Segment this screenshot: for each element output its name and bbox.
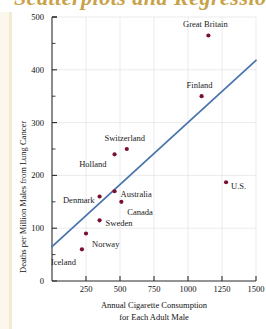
y-axis-title: Deaths per Million Males from Lung Cance…	[19, 121, 28, 273]
x-axis-title-line1: Annual Cigarette Consumption	[52, 301, 256, 310]
data-point	[206, 33, 210, 37]
y-axis-tick-label: 0	[0, 277, 44, 286]
y-axis-tick-label: 500	[0, 13, 44, 22]
data-point	[112, 152, 116, 156]
data-point	[80, 247, 84, 251]
data-point-label: Norway	[92, 240, 119, 249]
data-point	[98, 218, 102, 222]
data-point	[84, 231, 88, 235]
scatterplot-figure: Scatterplots and Regression 010020030040…	[0, 0, 266, 329]
data-point	[224, 180, 228, 184]
data-point	[200, 94, 204, 98]
data-point	[119, 200, 123, 204]
data-point-label: Australia	[121, 190, 152, 199]
y-axis-tick-label: 400	[0, 66, 44, 75]
data-point	[112, 189, 116, 193]
data-point-label: Denmark	[0, 196, 95, 205]
data-point-label: Holland	[0, 160, 107, 169]
data-point-label: Canada	[127, 208, 153, 217]
x-axis-title-line2: for Each Adult Male	[52, 313, 256, 322]
data-point	[98, 194, 102, 198]
data-point-label: Great Britain	[145, 20, 265, 29]
x-axis-tick-label: 1500	[236, 285, 266, 294]
data-point	[125, 147, 129, 151]
data-point-label: Iceland	[0, 258, 76, 267]
data-point-label: Switzerland	[65, 134, 185, 143]
data-point-label: Sweden	[106, 219, 133, 228]
data-point-label: U.S.	[231, 182, 246, 191]
data-point-label: Finland	[140, 81, 260, 90]
